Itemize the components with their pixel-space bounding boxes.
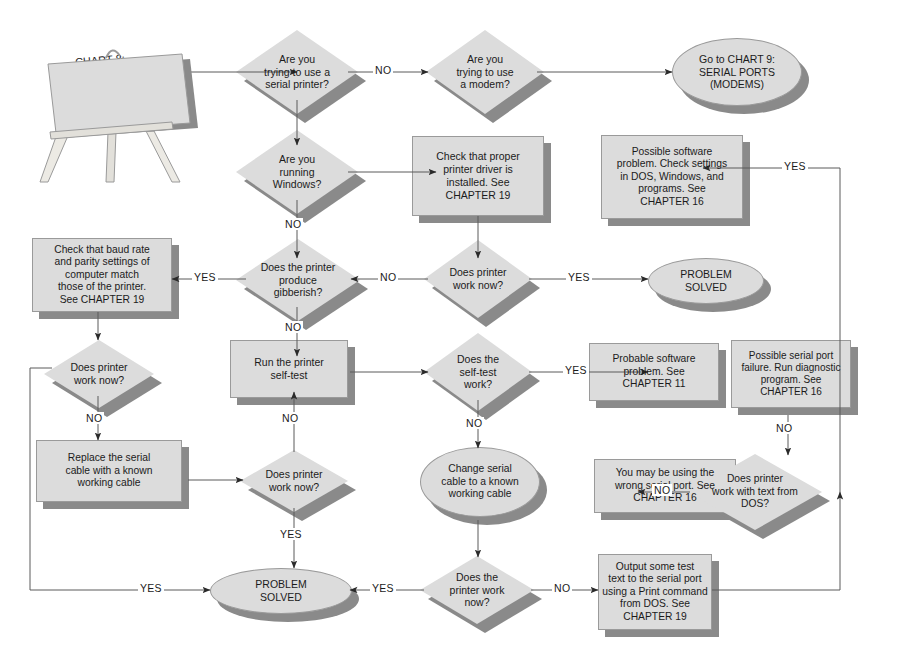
flowchart-canvas: CHART 8: SERIAL PORTS (PRINTERS) [0,0,912,663]
decision-printer-work-now-3[interactable]: Does printer work now? [240,450,348,512]
node-face [589,343,719,401]
process-possible-serial-port-failure[interactable]: Possible serial port failure. Run diagno… [731,340,851,408]
edge-label-d6-no: NO [84,412,104,424]
edge-label-d8-yes: YES [278,528,304,540]
edge-label-d6-yes: YES [138,582,164,594]
edge-label-d10-no: NO [552,582,572,594]
edge-label-d5-no: NO [378,271,398,283]
edge-label-p6-no: NO [774,422,794,434]
decision-running-windows[interactable]: Are you running Windows? [236,130,358,214]
node-face [32,238,172,312]
node-face [598,554,712,630]
node-face [601,135,743,219]
node-face [731,340,851,408]
node-face [412,136,544,216]
easel-graphic [22,36,212,186]
terminator-problem-solved-bottom[interactable]: PROBLEM SOLVED [210,568,352,614]
node-face [236,130,358,214]
node-face [230,340,348,398]
edge-label-d7-yes: YES [563,364,589,376]
node-face [236,30,358,114]
process-output-test-text[interactable]: Output some test text to the serial port… [598,554,712,630]
terminator-problem-solved-upper[interactable]: PROBLEM SOLVED [648,258,764,304]
node-face [210,568,352,614]
edge-label-d3-no: NO [283,218,303,230]
decision-serial-printer[interactable]: Are you trying to use a serial printer? [236,30,358,114]
node-face [426,30,544,114]
decision-modem[interactable]: Are you trying to use a modem? [426,30,544,114]
process-probable-software-problem[interactable]: Probable software problem. See CHAPTER 1… [589,343,719,401]
process-run-self-test[interactable]: Run the printer self-test [230,340,348,398]
decision-printer-gibberish[interactable]: Does the printer produce gibberish? [236,239,360,321]
process-check-baud-rate[interactable]: Check that baud rate and parity settings… [32,238,172,312]
edge-label-d7-no: NO [464,417,484,429]
edge-label-d10-yes: YES [370,582,396,594]
edge-label-d9-yes: YES [782,160,808,172]
node-face [424,333,532,411]
edge-label-d4-yes: YES [192,271,218,283]
decision-printer-work-now-2[interactable]: Does printer work now? [44,340,154,408]
terminator-goto-chart9[interactable]: Go to CHART 9: SERIAL PORTS (MODEMS) [672,38,802,106]
node-face [36,440,182,502]
decision-self-test-work[interactable]: Does the self-test work? [424,333,532,411]
decision-printer-work-now-4[interactable]: Does the printer work now? [420,556,534,624]
process-replace-serial-cable[interactable]: Replace the serial cable with a known wo… [36,440,182,502]
edge-label-d1-no: NO [373,64,393,76]
node-face [420,447,540,517]
node-face [672,38,802,106]
process-check-printer-driver[interactable]: Check that proper printer driver is inst… [412,136,544,216]
decision-printer-work-now-1[interactable]: Does printer work now? [424,240,532,318]
edge-label-d5-yes: YES [566,271,592,283]
node-face [648,258,764,304]
node-face [424,240,532,318]
terminator-change-serial-cable[interactable]: Change serial cable to a known working c… [420,447,540,517]
node-face [236,239,360,321]
process-possible-software-problem[interactable]: Possible software problem. Check setting… [601,135,743,219]
edge-label-d8-no: NO [280,412,300,424]
